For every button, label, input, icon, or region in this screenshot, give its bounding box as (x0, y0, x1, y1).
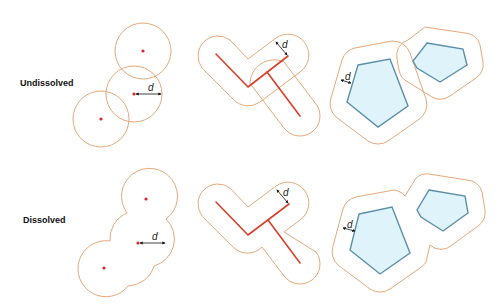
panel-undissolved-points: d (73, 23, 171, 147)
panel-undissolved-lines: d (198, 34, 320, 136)
panel-dissolved-polygons: d (332, 174, 485, 292)
distance-label: d (152, 231, 158, 242)
panel-dissolved-lines: d (198, 182, 320, 284)
distance-label: d (148, 82, 154, 93)
distance-label: d (282, 39, 288, 50)
buffer-diagram: d d d d d (0, 0, 499, 307)
panel-undissolved-polygons: d (330, 27, 483, 144)
distance-label: d (347, 219, 353, 230)
distance-label: d (345, 71, 351, 82)
panel-dissolved-points: d (78, 168, 178, 296)
distance-label: d (283, 187, 289, 198)
